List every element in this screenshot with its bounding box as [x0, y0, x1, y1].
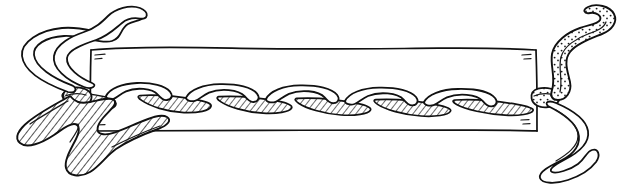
figure-root: Lacing stitch through panel edge whipsti… — [0, 0, 629, 189]
panel-bottom-edge — [91, 130, 537, 131]
lacing-stitch-diagram — [0, 0, 629, 189]
